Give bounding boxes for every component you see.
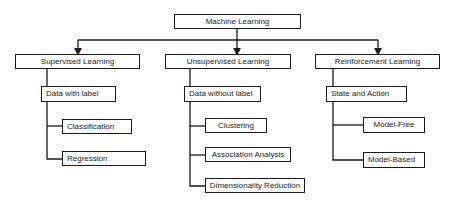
node-clustering: Clustering <box>205 118 267 133</box>
node-state-and-action: State and Action <box>326 86 407 102</box>
node-model-free: Model-Free <box>363 117 425 133</box>
node-supervised-learning: Supervised Learning <box>15 54 140 69</box>
connector-lines <box>0 0 454 205</box>
node-regression: Regression <box>62 151 146 166</box>
node-data-without-label: Data without label <box>184 86 261 102</box>
node-dimensionality-reduction: Dimensionality Reduction <box>205 178 305 193</box>
node-machine-learning: Machine Learning <box>174 14 301 29</box>
node-unsupervised-learning: Unsupervised Learning <box>165 54 291 69</box>
node-reinforcement-learning: Reinforcement Learning <box>315 54 440 69</box>
node-model-based: Model-Based <box>363 152 425 168</box>
node-classification: Classification <box>62 119 132 134</box>
node-association-analysis: Association Analysis <box>205 147 291 162</box>
ml-taxonomy-diagram: Machine Learning Supervised Learning Uns… <box>0 0 454 205</box>
node-data-with-label: Data with label <box>41 86 116 102</box>
